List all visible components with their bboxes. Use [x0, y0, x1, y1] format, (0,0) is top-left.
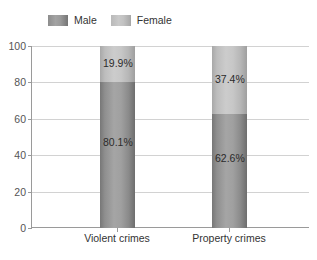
bar-label-male-property: 62.6%: [215, 152, 245, 164]
ytick-label-20: 20: [14, 186, 26, 198]
legend-item-female: Female: [111, 14, 172, 26]
ytick-label-0: 0: [20, 222, 26, 234]
gridline-80: [32, 82, 309, 83]
legend-item-male: Male: [48, 14, 97, 26]
bar-segment-male-property[interactable]: 62.6%: [212, 114, 247, 228]
gridline-60: [32, 119, 309, 120]
ytick-label-40: 40: [14, 149, 26, 161]
xtick-label-violent-crimes: Violent crimes: [84, 232, 150, 244]
female-color-swatch: [111, 15, 131, 26]
bar-violent-crimes[interactable]: 19.9% 80.1%: [100, 46, 135, 228]
bar-property-crimes[interactable]: 37.4% 62.6%: [212, 46, 247, 228]
bar-label-female-property: 37.4%: [215, 73, 245, 85]
ytick-mark-40: [28, 155, 32, 156]
bar-segment-female-property[interactable]: 37.4%: [212, 46, 247, 114]
plot-area: 100 80 60 40 20 0 19.9% 80.1% 37.4%: [32, 46, 309, 228]
ytick-mark-100: [28, 46, 32, 47]
ytick-mark-60: [28, 119, 32, 120]
male-color-swatch: [48, 15, 68, 26]
ytick-label-100: 100: [8, 40, 26, 52]
bar-label-male-violent: 80.1%: [103, 136, 133, 148]
ytick-mark-80: [28, 82, 32, 83]
ytick-label-80: 80: [14, 76, 26, 88]
bar-segment-male-violent[interactable]: 80.1%: [100, 82, 135, 228]
gridline-100: [32, 46, 309, 47]
ytick-mark-0: [28, 228, 32, 229]
gridline-40: [32, 155, 309, 156]
ytick-mark-20: [28, 192, 32, 193]
bar-label-female-violent: 19.9%: [103, 57, 133, 69]
ytick-label-60: 60: [14, 113, 26, 125]
legend-label-male: Male: [74, 14, 97, 26]
bar-segment-female-violent[interactable]: 19.9%: [100, 46, 135, 82]
stacked-bar-chart: Male Female 100 80 60 40 20 0 19.9%: [0, 0, 317, 260]
xtick-label-property-crimes: Property crimes: [192, 232, 266, 244]
legend-label-female: Female: [137, 14, 172, 26]
chart-legend: Male Female: [48, 14, 172, 26]
gridline-20: [32, 192, 309, 193]
